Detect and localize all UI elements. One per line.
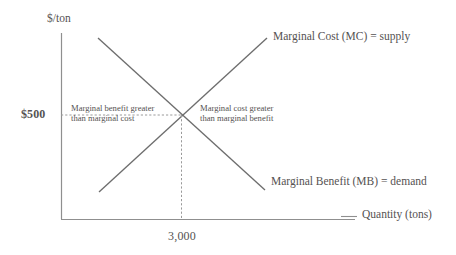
x-axis-title: Quantity (tons) <box>362 209 432 221</box>
annotation-right-line-2: than marginal benefit <box>200 114 273 124</box>
economics-supply-demand-figure: $/ton $500 Quantity (tons) 3,000 Margina… <box>0 0 456 255</box>
x-axis-tick-label-3000: 3,000 <box>168 230 196 242</box>
marginal-cost-curve-label: Marginal Cost (MC) = supply <box>273 31 410 43</box>
annotation-marginal-cost-greater: Marginal cost greater than marginal bene… <box>200 104 273 123</box>
y-axis-title: $/ton <box>47 13 71 25</box>
annotation-left-line-2: than marginal cost <box>71 114 154 124</box>
annotation-marginal-benefit-greater: Marginal benefit greater than marginal c… <box>71 104 154 123</box>
y-axis-tick-label-500: $500 <box>21 108 45 120</box>
marginal-benefit-curve-label: Marginal Benefit (MB) = demand <box>271 176 427 188</box>
